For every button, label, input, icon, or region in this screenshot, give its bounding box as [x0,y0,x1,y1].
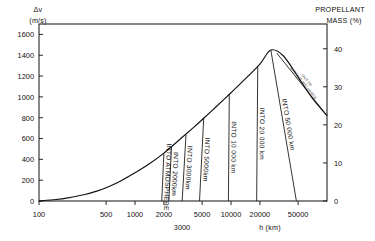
x-tick-label: 100 [33,210,45,219]
radial-boundary-lines [162,50,297,201]
radial-line [257,67,258,201]
left-tick-label: 1600 [18,30,34,39]
annotation-text-line2: EARTH'S INFLUENCE [289,66,317,100]
left-tick-label: 200 [22,176,34,185]
left-tick-label: 600 [22,134,34,143]
radial-line [162,153,164,201]
right-axis-ticks [323,49,327,201]
left-tick-label: 1000 [18,93,34,102]
radial-line [182,134,186,201]
left-axis-tick-labels: 02004006008001000120014001600 [18,30,34,206]
radial-line [228,94,229,201]
radial-line [200,118,204,201]
left-tick-label: 800 [22,114,34,123]
delta-v-propellant-mass-chart: Δv (m/s) PROPELLANT MASS (%) 02004006008… [0,0,375,241]
x-axis-tick-labels: 100500100020005000100002000050000 [33,210,309,219]
x-tick-label: 1000 [127,210,143,219]
x-tick-label: 2000 [156,210,172,219]
left-axis-title-line1: Δv [34,5,43,14]
radial-label: INTO 10 000 km [230,121,237,174]
right-tick-label: 10 [334,159,342,168]
radial-label: INTO 5000km [202,137,211,182]
radial-label: INTO 3000km [184,146,194,191]
right-axis-title-line1: PROPELLANT [315,5,365,14]
right-axis-tick-labels: 010203040 [334,45,342,206]
right-tick-label: 20 [334,121,342,130]
left-tick-label: 1200 [18,72,34,81]
left-axis-ticks [39,34,43,201]
right-axis-title-line2: MASS (%) [326,16,361,25]
radial-label: INTO 20 000 km [259,108,266,161]
x-axis-extra-tick-label: 3000 [174,223,190,232]
x-tick-label: 20000 [250,210,271,219]
x-tick-label: 5000 [194,210,210,219]
right-tick-label: 40 [334,45,342,54]
left-tick-label: 400 [22,155,34,164]
right-tick-label: 30 [334,83,342,92]
right-tick-label: 0 [334,197,338,206]
x-axis-title: h (km) [259,223,281,232]
x-tick-label: 50000 [288,210,309,219]
x-tick-label: 500 [100,210,112,219]
chart-canvas: Δv (m/s) PROPELLANT MASS (%) 02004006008… [0,0,375,241]
left-tick-label: 1400 [18,51,34,60]
left-tick-label: 0 [30,197,34,206]
x-tick-label: 10000 [221,210,242,219]
